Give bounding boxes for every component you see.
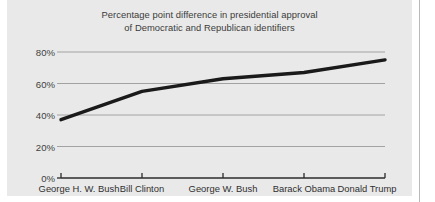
- data-series-line-group: [61, 60, 385, 120]
- chart-plot-area: [0, 0, 435, 202]
- y-axis-tick-label: 40%: [15, 110, 55, 121]
- chart-figure: Percentage point difference in president…: [0, 0, 435, 202]
- data-series-line: [61, 60, 385, 120]
- x-axis-tick-label: Donald Trump: [338, 183, 397, 194]
- y-axis-tick-label: 0%: [15, 173, 55, 184]
- y-axis-tick-label: 80%: [15, 47, 55, 58]
- y-axis-tick-label: 20%: [15, 141, 55, 152]
- x-axis-tick-label: Barack Obama: [273, 183, 336, 194]
- y-axis-tick-label: 60%: [15, 78, 55, 89]
- x-axis-tick-label: George H. W. Bush: [39, 183, 120, 194]
- x-axis-tick-label: Bill Clinton: [120, 183, 164, 194]
- x-axis-tick-label: George W. Bush: [189, 183, 258, 194]
- right-divider-rule: [419, 0, 420, 202]
